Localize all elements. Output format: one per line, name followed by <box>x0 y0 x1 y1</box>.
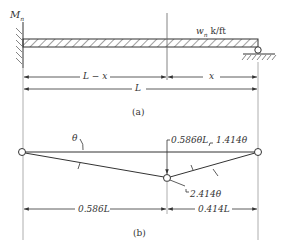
theta-label: θ <box>72 134 77 143</box>
dim-0414l: 0.414L <box>198 205 230 214</box>
hinge-left-icon <box>19 149 26 156</box>
pin-support-icon <box>242 47 276 60</box>
dim-0586l: 0.586L <box>78 205 110 214</box>
caption-a: (a) <box>132 108 144 117</box>
beam <box>23 39 258 47</box>
dim-l-minus-x: L − x <box>83 72 107 81</box>
moment-label: Mn <box>10 10 24 22</box>
diagram-canvas <box>0 0 285 249</box>
hinge-right-icon <box>255 149 262 156</box>
dim-l: L <box>135 84 141 93</box>
rotation-right-label: 1.414θ <box>216 136 247 145</box>
fixed-support-icon <box>16 22 23 68</box>
dim-x: x <box>209 72 214 81</box>
rotation-mid-label: 2.414θ <box>190 190 221 199</box>
load-label: wn k/ft <box>196 27 226 38</box>
caption-b: (b) <box>133 229 146 238</box>
deflection-label: 0.586θL <box>171 136 208 145</box>
mechanism-left-link <box>25 153 164 177</box>
mechanism-right-link <box>170 153 255 177</box>
